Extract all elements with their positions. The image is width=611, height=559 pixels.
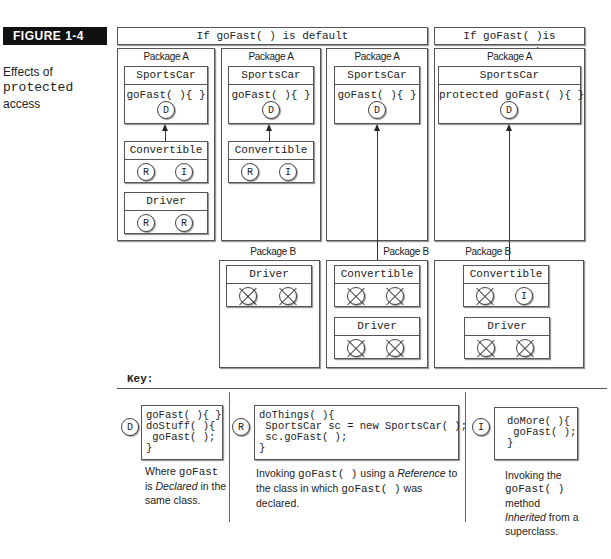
package-title: Package A bbox=[118, 51, 214, 62]
badge-declared: D bbox=[262, 101, 280, 119]
badge-declared: D bbox=[500, 101, 518, 119]
class-driver-col1: Driver R R bbox=[124, 192, 208, 234]
key-code-inherited: doMore( ){ goFast( ); } bbox=[494, 407, 578, 460]
class-name: Driver bbox=[335, 318, 419, 336]
class-name: Driver bbox=[125, 193, 207, 211]
package-title: Package B bbox=[378, 246, 434, 257]
package-title: Package B bbox=[460, 246, 516, 257]
badge-reference: R bbox=[137, 163, 155, 181]
class-name: Convertible bbox=[335, 266, 419, 284]
key-badge-declared: D bbox=[121, 418, 139, 436]
class-name: Convertible bbox=[464, 266, 548, 284]
package-title: Package A bbox=[222, 51, 320, 62]
class-driver-col4: Driver bbox=[464, 317, 550, 359]
class-convertible-col2: Convertible R I bbox=[228, 141, 314, 183]
badge-not-allowed-icon bbox=[347, 339, 365, 357]
caption-code: protected bbox=[3, 80, 108, 96]
key-code-reference: doThings( ){ SportsCar sc = new SportsCa… bbox=[254, 405, 459, 460]
class-name: Convertible bbox=[125, 142, 207, 160]
class-name: Driver bbox=[227, 266, 311, 284]
class-convertible-col1: Convertible R I bbox=[124, 141, 208, 183]
key-divider bbox=[117, 388, 607, 389]
key-title: Key: bbox=[127, 373, 153, 385]
class-name: SportsCar bbox=[335, 67, 419, 85]
badge-not-allowed-icon bbox=[386, 339, 404, 357]
caption-line-1: Effects of bbox=[3, 64, 108, 80]
header-protected: If goFast( )is protected bbox=[434, 27, 585, 45]
inheritance-arrow-icon bbox=[162, 124, 168, 131]
package-title: Package A bbox=[327, 51, 427, 62]
key-code-declared: goFast( ){ } doStuff( ){ goFast( ); } bbox=[141, 405, 223, 460]
class-sportscar-col1: SportsCar goFast( ){ } D bbox=[124, 66, 208, 124]
inheritance-line bbox=[377, 130, 378, 265]
badge-not-allowed-icon bbox=[279, 287, 297, 305]
class-driver-col3: Driver bbox=[334, 317, 420, 359]
figure-label: FIGURE 1-4 bbox=[3, 27, 107, 45]
class-name: Driver bbox=[465, 318, 549, 336]
figure-caption: Effects of protected access bbox=[3, 64, 108, 112]
package-title: Package A bbox=[435, 51, 584, 62]
badge-reference: R bbox=[175, 214, 193, 232]
class-name: SportsCar bbox=[439, 67, 580, 85]
key-column-divider bbox=[229, 392, 230, 522]
class-sportscar-col3: SportsCar goFast( ){ } D bbox=[334, 66, 420, 124]
key-badge-inherited: I bbox=[472, 418, 490, 436]
key-desc-reference: Invoking goFast( ) using a Reference to … bbox=[256, 466, 466, 510]
caption-line-3: access bbox=[3, 96, 108, 112]
class-name: SportsCar bbox=[125, 67, 207, 85]
class-sportscar-col4: SportsCar protected goFast( ){ } D bbox=[438, 66, 581, 124]
badge-inherited: I bbox=[515, 287, 533, 305]
badge-inherited: I bbox=[279, 163, 297, 181]
class-name: SportsCar bbox=[229, 67, 313, 85]
key-badge-reference: R bbox=[232, 418, 250, 436]
inheritance-arrow-icon bbox=[266, 124, 272, 131]
badge-not-allowed-icon bbox=[476, 287, 494, 305]
badge-reference: R bbox=[137, 214, 155, 232]
class-driver-col2: Driver bbox=[226, 265, 312, 307]
badge-not-allowed-icon bbox=[516, 339, 534, 357]
key-desc-declared: Where goFast is Declared in the same cla… bbox=[145, 464, 227, 507]
badge-declared: D bbox=[368, 101, 386, 119]
package-title: Package B bbox=[245, 246, 301, 257]
badge-reference: R bbox=[241, 163, 259, 181]
class-convertible-col3: Convertible bbox=[334, 265, 420, 307]
inheritance-line bbox=[509, 130, 510, 265]
key-desc-inherited: Invoking the goFast( ) method Inherited … bbox=[505, 468, 595, 538]
badge-not-allowed-icon bbox=[386, 287, 404, 305]
badge-not-allowed-icon bbox=[477, 339, 495, 357]
badge-declared: D bbox=[157, 101, 175, 119]
badge-not-allowed-icon bbox=[239, 287, 257, 305]
badge-inherited: I bbox=[175, 163, 193, 181]
badge-not-allowed-icon bbox=[347, 287, 365, 305]
header-default: If goFast( ) is default bbox=[117, 27, 428, 45]
class-name: Convertible bbox=[229, 142, 313, 160]
class-convertible-col4: Convertible I bbox=[463, 265, 549, 307]
class-sportscar-col2: SportsCar goFast( ){ } D bbox=[228, 66, 314, 124]
